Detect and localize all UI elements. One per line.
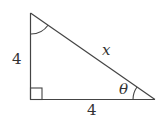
horizontal-leg-label: 4: [87, 101, 97, 119]
right-triangle-diagram: 4 4 x θ: [0, 0, 162, 119]
vertical-leg-label: 4: [12, 50, 22, 68]
theta-angle-arc: [133, 87, 137, 100]
theta-label: θ: [119, 80, 128, 98]
hypotenuse: [31, 13, 156, 100]
top-angle-arc: [31, 25, 49, 34]
hypotenuse-label: x: [102, 41, 111, 59]
right-angle-mark: [31, 88, 43, 100]
